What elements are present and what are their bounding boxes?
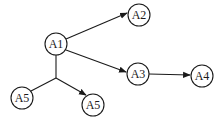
node-label: A2 [132,8,147,22]
node-label: A1 [49,37,64,51]
node-label: A4 [195,69,210,83]
node-a1: A1 [45,33,67,55]
edge-a1-a3 [66,50,126,72]
node-a2: A2 [128,4,150,26]
edge-a1-a2 [66,13,127,39]
node-a4: A4 [191,65,213,87]
node-a3: A3 [127,63,149,85]
node-label: A5 [15,91,30,105]
node-a5-right: A5 [82,94,104,116]
edge-junction-a5right [56,78,86,95]
edge-a5left-junction [31,78,56,91]
edge-a3-a4 [149,74,190,75]
node-label: A5 [86,98,101,112]
node-label: A3 [131,67,146,81]
node-a5-left: A5 [11,87,33,109]
graph-diagram: A1 A2 A3 A4 A5 A5 [0,0,218,124]
